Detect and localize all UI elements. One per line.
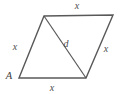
label-bottom-side: x	[50, 83, 54, 93]
geometry-figure: x x x x d A	[0, 0, 120, 94]
label-right-side: x	[104, 44, 108, 54]
rhombus-diagram-svg	[0, 0, 120, 94]
label-top-side: x	[75, 1, 79, 11]
label-left-side: x	[13, 42, 17, 52]
label-diagonal: d	[64, 39, 69, 49]
label-vertex-a: A	[6, 71, 12, 81]
